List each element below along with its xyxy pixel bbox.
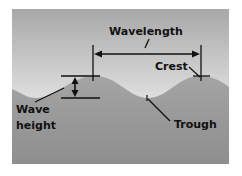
trough-label: Trough xyxy=(174,118,217,131)
wave-height-label-line1: Wave xyxy=(16,103,50,116)
crest-label: Crest xyxy=(155,60,188,73)
wavelength-label: Wavelength xyxy=(109,25,183,38)
wave-height-label-line2: height xyxy=(16,119,56,132)
wave-diagram: Wavelength Crest Wave height Trough xyxy=(0,0,242,176)
